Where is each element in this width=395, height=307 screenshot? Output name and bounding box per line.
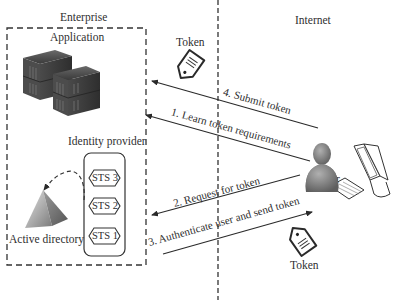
sts-3-label: STS 3 — [88, 173, 122, 184]
user-label: User — [318, 174, 340, 186]
sts-1-label: STS 1 — [88, 231, 122, 242]
active-directory-pyramid-icon — [25, 190, 68, 228]
token-tag-icon — [285, 223, 316, 256]
application-label: Application — [50, 32, 104, 44]
enterprise-zone-label: Enterprise — [60, 12, 107, 24]
desktop-computer-icon — [330, 144, 390, 199]
identity-provider-label: Identity provider — [68, 136, 146, 148]
token-label-top: Token — [176, 37, 205, 49]
active-directory-label: Active directory — [9, 234, 84, 246]
server-rack-icon — [23, 50, 100, 116]
token-label-bottom: Token — [290, 260, 319, 272]
token-tag-icon — [173, 50, 204, 83]
sts-2-label: STS 2 — [88, 201, 122, 212]
internet-zone-label: Internet — [295, 15, 331, 27]
identity-federation-diagram: Enterprise Internet Application Identity… — [0, 0, 395, 307]
sts-ad-link — [44, 171, 84, 200]
